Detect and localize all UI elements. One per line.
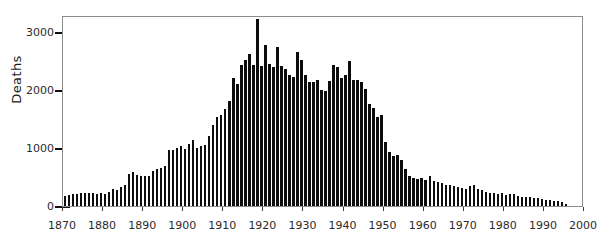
bar [437,182,439,206]
bar [280,66,282,206]
bar [84,193,86,206]
x-tick-mark [463,207,464,211]
bar [509,194,511,206]
bar [208,136,210,206]
bar [332,65,334,206]
bar [352,80,354,206]
bar [505,195,507,206]
bar [64,196,66,206]
bar [457,187,459,206]
bar [292,77,294,206]
bar [144,176,146,206]
bar [328,81,330,206]
x-tick-mark [383,207,384,211]
bar [168,150,170,206]
x-tick-label: 1950 [369,219,397,232]
bar [344,75,346,206]
bar [176,148,178,206]
x-tick-label: 1900 [168,219,196,232]
bar [68,195,70,206]
bar [513,194,515,206]
x-tick-label: 1910 [208,219,236,232]
bar [296,52,298,206]
bar [465,189,467,206]
x-tick-mark [182,207,183,211]
bar [256,19,258,206]
bar [116,190,118,206]
deaths-bar-chart: Deaths 0100020003000 1870188018901900191… [0,0,601,239]
bar [533,198,535,206]
bar [356,80,358,206]
bar [80,193,82,206]
bar [525,197,527,206]
bar [160,168,162,206]
bar [88,193,90,206]
plot-area [62,16,583,207]
bar [100,193,102,206]
bar [184,149,186,206]
x-tick-mark [423,207,424,211]
bar [469,186,471,206]
bar [308,82,310,206]
bar [124,185,126,206]
bar [268,64,270,206]
bar [152,171,154,206]
x-tick-label: 1930 [288,219,316,232]
x-tick-mark [302,207,303,211]
bar [188,144,190,207]
bar-series [63,17,582,206]
y-tick-label: 3000 [8,26,54,39]
bar [300,60,302,206]
bar [108,192,110,206]
x-tick-mark [543,207,544,211]
bar [320,90,322,206]
x-tick-label: 1890 [128,219,156,232]
bar [400,160,402,206]
bar [549,200,551,206]
bar [453,186,455,206]
bar [501,193,503,206]
bar [156,169,158,206]
x-tick-mark [583,207,584,211]
bar [276,47,278,206]
bar [416,179,418,206]
bar [372,108,374,206]
bar [449,185,451,206]
bar [324,91,326,206]
bar [565,204,567,206]
bar [264,45,266,206]
bar [429,176,431,206]
x-tick-label: 1870 [48,219,76,232]
bar [104,194,106,206]
bar [76,194,78,206]
x-tick-label: 1880 [88,219,116,232]
bar [481,190,483,206]
bar [404,169,406,206]
bar [92,193,94,206]
bar [248,54,250,206]
bar [517,196,519,206]
bar [340,78,342,206]
bar [360,82,362,206]
bar [392,156,394,206]
y-tick-label: 2000 [8,84,54,97]
x-tick-mark [222,207,223,211]
bar [553,201,555,206]
bar [228,101,230,206]
bar [368,104,370,206]
y-axis-label: Deaths [9,40,24,120]
bar [461,188,463,206]
x-tick-label: 1970 [449,219,477,232]
bar [220,115,222,206]
bar [72,194,74,206]
bar [408,176,410,206]
bar [493,193,495,206]
bar [164,166,166,207]
y-tick-label: 1000 [8,142,54,155]
bar [260,66,262,206]
bar [136,175,138,206]
bar [380,115,382,206]
bar [364,89,366,206]
x-tick-mark [262,207,263,211]
bar [541,199,543,206]
